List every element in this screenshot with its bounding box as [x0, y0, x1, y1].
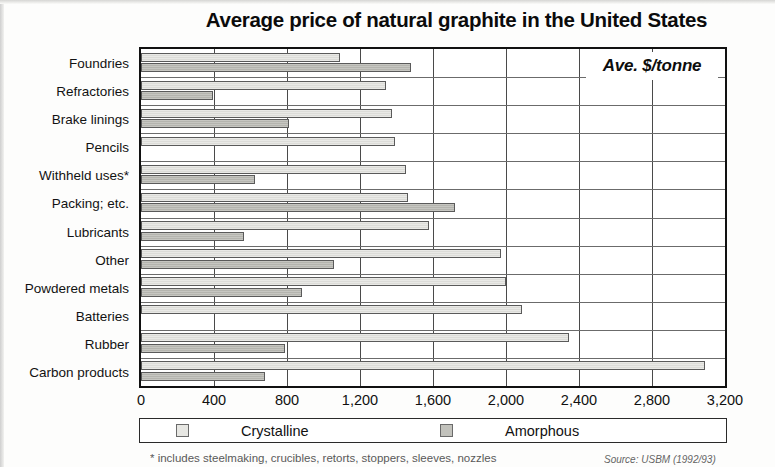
- bar-crystalline-5: [141, 193, 408, 202]
- bar-crystalline-0: [141, 53, 340, 62]
- bar-amorphous-8: [141, 288, 302, 297]
- legend-label-crystalline: Crystalline: [241, 423, 309, 439]
- y-axis-label-4: Withheld uses*: [39, 168, 129, 183]
- bar-crystalline-1: [141, 81, 386, 90]
- x-axis-label-1600: 1,600: [415, 392, 451, 408]
- bar-amorphous-4: [141, 175, 255, 184]
- bar-crystalline-6: [141, 221, 429, 230]
- x-axis-label-3200: 3,200: [707, 392, 743, 408]
- x-axis-label-0: 0: [137, 392, 145, 408]
- y-axis-label-9: Batteries: [76, 308, 129, 323]
- bar-amorphous-0: [141, 63, 411, 72]
- footnote: * includes steelmaking, crucibles, retor…: [150, 452, 496, 464]
- x-axis-label-400: 400: [202, 392, 226, 408]
- bar-crystalline-10: [141, 333, 569, 342]
- gridline-3200: [725, 49, 726, 386]
- bar-crystalline-7: [141, 249, 501, 258]
- legend: Crystalline Amorphous: [139, 418, 727, 443]
- category-line: [141, 358, 725, 359]
- ave-unit-note: Ave. $/tonne: [586, 52, 718, 80]
- y-axis-label-2: Brake linings: [52, 112, 129, 127]
- bar-crystalline-8: [141, 277, 506, 286]
- y-axis-label-0: Foundries: [69, 56, 129, 71]
- x-axis-labels: 04008001,2001,6002,0002,4002,8003,200: [0, 392, 775, 412]
- bar-amorphous-7: [141, 260, 334, 269]
- y-axis-label-7: Other: [95, 252, 129, 267]
- scan-top-artifact: [0, 0, 775, 4]
- bar-crystalline-9: [141, 305, 522, 314]
- legend-swatch-crystalline: [176, 424, 189, 437]
- y-axis-label-10: Rubber: [85, 336, 129, 351]
- bar-crystalline-11: [141, 361, 705, 370]
- bar-crystalline-4: [141, 165, 406, 174]
- category-line: [141, 133, 725, 134]
- chart-title: Average price of natural graphite in the…: [138, 8, 775, 32]
- category-line: [141, 330, 725, 331]
- legend-swatch-amorphous: [440, 424, 453, 437]
- legend-label-amorphous: Amorphous: [505, 423, 579, 439]
- bar-amorphous-1: [141, 91, 213, 100]
- category-line: [141, 218, 725, 219]
- legend-entry-amorphous: Amorphous: [440, 423, 579, 439]
- bar-amorphous-6: [141, 232, 244, 241]
- y-axis-labels: FoundriesRefractoriesBrake liningsPencil…: [0, 47, 133, 388]
- y-axis-label-6: Lubricants: [67, 224, 129, 239]
- bar-amorphous-5: [141, 203, 455, 212]
- x-axis-label-2400: 2,400: [561, 392, 597, 408]
- category-line: [141, 246, 725, 247]
- bar-amorphous-11: [141, 372, 265, 381]
- y-axis-label-3: Pencils: [85, 140, 129, 155]
- legend-entry-crystalline: Crystalline: [176, 423, 309, 439]
- category-line: [141, 274, 725, 275]
- category-line: [141, 302, 725, 303]
- x-axis-label-1200: 1,200: [342, 392, 378, 408]
- x-axis-label-2800: 2,800: [634, 392, 670, 408]
- category-line: [141, 105, 725, 106]
- bar-amorphous-10: [141, 344, 285, 353]
- y-axis-label-1: Refractories: [56, 84, 129, 99]
- x-axis-label-800: 800: [275, 392, 299, 408]
- y-axis-label-11: Carbon products: [29, 364, 129, 379]
- y-axis-label-8: Powdered metals: [25, 280, 129, 295]
- category-line: [141, 189, 725, 190]
- bar-crystalline-2: [141, 109, 392, 118]
- category-line: [141, 161, 725, 162]
- y-axis-label-5: Packing; etc.: [52, 196, 129, 211]
- x-axis-label-2000: 2,000: [488, 392, 524, 408]
- bar-amorphous-2: [141, 119, 289, 128]
- plot-area: [139, 47, 727, 388]
- source-credit: Source: USBM (1992/93): [604, 454, 716, 465]
- bar-crystalline-3: [141, 137, 395, 146]
